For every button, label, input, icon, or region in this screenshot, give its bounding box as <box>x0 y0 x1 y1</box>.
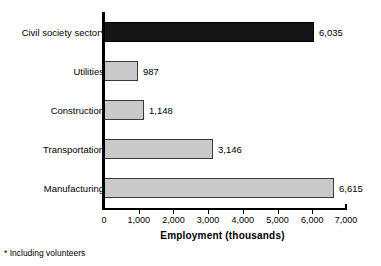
x-tick-2000 <box>173 210 174 214</box>
bar-manufacturing[interactable] <box>104 178 334 198</box>
category-label-manufacturing: Manufacturing <box>0 183 104 194</box>
bar-civil-society-sector[interactable] <box>104 22 314 42</box>
x-tick-4000 <box>243 210 244 214</box>
category-label-civil-society-sector: Civil society sector* <box>0 27 104 38</box>
x-tick-5000 <box>278 210 279 214</box>
bar-value-construction: 1,148 <box>149 105 173 116</box>
x-tick-0 <box>103 204 105 210</box>
bar-construction[interactable] <box>104 100 144 120</box>
bar-value-civil-society-sector: 6,035 <box>319 27 343 38</box>
x-tick-6000 <box>312 210 313 214</box>
x-tick-3000 <box>208 210 209 214</box>
category-label-utilities: Utilities <box>0 66 104 77</box>
chart-footnote: * Including volunteers <box>4 248 85 259</box>
x-axis-title: Employment (thousands) <box>0 230 381 241</box>
bar-value-manufacturing: 6,615 <box>339 183 363 194</box>
bar-value-utilities: 987 <box>143 66 159 77</box>
bar-transportation[interactable] <box>104 139 213 159</box>
x-axis-title-text: Employment (thousands) <box>160 230 284 241</box>
plot-area: Civil society sector* Utilities Construc… <box>0 0 381 266</box>
x-tick-7000 <box>345 204 347 210</box>
x-tick-label-7000: 7,000 <box>326 215 366 226</box>
bar-chart: Civil society sector* Utilities Construc… <box>0 0 381 266</box>
category-label-construction: Construction <box>0 105 104 116</box>
bar-value-transportation: 3,146 <box>218 144 242 155</box>
y-axis-line <box>102 12 105 210</box>
x-tick-1000 <box>139 210 140 214</box>
bar-utilities[interactable] <box>104 61 138 81</box>
category-label-transportation: Transportation <box>0 144 104 155</box>
